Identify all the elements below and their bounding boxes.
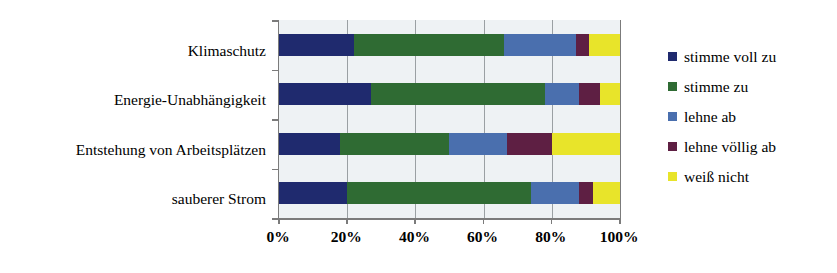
bar-segment [340, 133, 449, 155]
y-axis-tick [272, 218, 278, 220]
x-axis-tick [346, 218, 348, 224]
x-axis-tick-label: 100% [584, 228, 654, 246]
legend-label: lehne völlig ab [684, 138, 776, 155]
legend-swatch-stimme-zu [668, 82, 677, 91]
y-axis-tick [272, 169, 278, 171]
legend-item[interactable]: lehne völlig ab [668, 131, 833, 161]
bar-segment [576, 34, 590, 56]
y-axis-tick [272, 119, 278, 121]
x-axis-tick-label: 20% [311, 228, 381, 246]
bar-segment [279, 182, 347, 204]
y-axis-tick [272, 70, 278, 72]
bar-segment [279, 133, 340, 155]
legend-label: lehne ab [684, 108, 736, 125]
x-axis-tick-label: 60% [448, 228, 518, 246]
x-axis-tick-label: 80% [516, 228, 586, 246]
gridline-100pct [620, 20, 621, 218]
plot-area [278, 20, 620, 218]
legend-label: stimme zu [684, 78, 748, 95]
chart-legend: stimme voll zustimme zulehne ablehne völ… [668, 41, 833, 191]
legend-item[interactable]: weiß nicht [668, 161, 833, 191]
x-axis-tick [619, 218, 621, 224]
stacked-bar-chart: KlimaschutzEnergie-UnabhängigkeitEntsteh… [0, 0, 837, 273]
bar-segment [347, 182, 531, 204]
bar-segment [579, 83, 599, 105]
category-label: Klimaschutz [0, 43, 266, 59]
y-axis-tick [272, 20, 278, 22]
legend-label: stimme voll zu [684, 48, 776, 65]
bar-segment [600, 83, 620, 105]
bar-row [279, 182, 620, 204]
category-label: Energie-Unabhängigkeit [0, 92, 266, 108]
bar-row [279, 133, 620, 155]
bar-segment [593, 182, 620, 204]
x-axis-tick [278, 218, 280, 224]
bar-segment [279, 34, 354, 56]
legend-item[interactable]: lehne ab [668, 101, 833, 131]
legend-item[interactable]: stimme voll zu [668, 41, 833, 71]
x-axis-line [277, 218, 620, 220]
legend-swatch-lehne-ab [668, 112, 677, 121]
legend-swatch-lehne-voellig-ab [668, 142, 677, 151]
bar-segment [531, 182, 579, 204]
x-axis-tick [551, 218, 553, 224]
legend-label: weiß nicht [684, 168, 749, 185]
bar-segment [589, 34, 620, 56]
bar-segment [354, 34, 504, 56]
bar-segment [545, 83, 579, 105]
category-label: Entstehung von Arbeitsplätzen [0, 142, 266, 158]
x-axis-tick-label: 0% [243, 228, 313, 246]
legend-swatch-weiss-nicht [668, 172, 677, 181]
bar-segment [552, 133, 620, 155]
legend-swatch-stimme-voll-zu [668, 52, 677, 61]
bar-segment [279, 83, 371, 105]
bar-row [279, 34, 620, 56]
bar-segment [504, 34, 576, 56]
bar-segment [371, 83, 545, 105]
x-axis-tick-label: 40% [379, 228, 449, 246]
legend-item[interactable]: stimme zu [668, 71, 833, 101]
bar-segment [507, 133, 551, 155]
category-axis: KlimaschutzEnergie-UnabhängigkeitEntsteh… [0, 26, 272, 218]
bar-segment [449, 133, 507, 155]
x-axis-tick [483, 218, 485, 224]
bar-row [279, 83, 620, 105]
category-label: sauberer Strom [0, 191, 266, 207]
x-axis-tick [414, 218, 416, 224]
bar-segment [579, 182, 593, 204]
